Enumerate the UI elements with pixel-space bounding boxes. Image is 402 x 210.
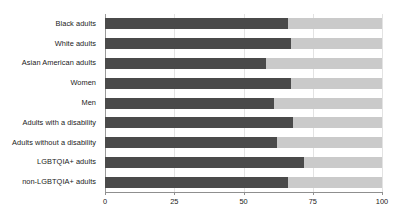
category-label: Adults with a disability <box>0 113 100 133</box>
bar-segment-primary <box>105 38 291 49</box>
bar-track <box>105 157 382 168</box>
bar-segment-primary <box>105 117 293 128</box>
bar-segment-remainder <box>277 137 382 148</box>
bar-segment-remainder <box>304 157 382 168</box>
category-label: Adults without a disability <box>0 133 100 153</box>
bar-row <box>105 172 382 192</box>
bar-segment-remainder <box>274 98 382 109</box>
bar-segment-remainder <box>288 18 382 29</box>
bar-chart: Black adultsWhite adultsAsian American a… <box>0 0 402 210</box>
x-tick-mark <box>313 192 314 195</box>
bar-track <box>105 78 382 89</box>
bar-segment-primary <box>105 18 288 29</box>
bar-segment-primary <box>105 177 288 188</box>
x-tick-label: 50 <box>239 197 247 206</box>
category-label: White adults <box>0 34 100 54</box>
bar-segment-remainder <box>266 58 382 69</box>
category-label: Asian American adults <box>0 54 100 74</box>
category-label: Women <box>0 73 100 93</box>
bar-row <box>105 133 382 153</box>
x-tick-mark <box>244 192 245 195</box>
x-tick-label: 75 <box>309 197 317 206</box>
bar-segment-primary <box>105 137 277 148</box>
bar-segment-remainder <box>288 177 382 188</box>
bar-track <box>105 58 382 69</box>
bar-row <box>105 93 382 113</box>
bar-track <box>105 38 382 49</box>
x-tick-mark <box>382 192 383 195</box>
bar-segment-primary <box>105 58 266 69</box>
bar-track <box>105 98 382 109</box>
x-axis: 0255075100 <box>105 192 382 210</box>
x-tick-mark <box>174 192 175 195</box>
bar-track <box>105 18 382 29</box>
bar-row <box>105 73 382 93</box>
bar-track <box>105 137 382 148</box>
bar-segment-remainder <box>291 38 382 49</box>
bar-row <box>105 54 382 74</box>
bars-container <box>105 14 382 192</box>
category-label: Men <box>0 93 100 113</box>
bar-segment-primary <box>105 157 304 168</box>
bar-segment-remainder <box>291 78 382 89</box>
bar-row <box>105 113 382 133</box>
bar-segment-primary <box>105 98 274 109</box>
bar-row <box>105 14 382 34</box>
bar-segment-remainder <box>293 117 382 128</box>
bar-segment-primary <box>105 78 291 89</box>
gridline <box>382 14 383 192</box>
x-tick-label: 100 <box>376 197 388 206</box>
x-tick-label: 0 <box>103 197 107 206</box>
x-tick-label: 25 <box>170 197 178 206</box>
category-axis-labels: Black adultsWhite adultsAsian American a… <box>0 14 100 192</box>
bar-row <box>105 152 382 172</box>
plot-area <box>105 14 382 192</box>
category-label: Black adults <box>0 14 100 34</box>
category-label: LGBTQIA+ adults <box>0 152 100 172</box>
category-label: non-LGBTQIA+ adults <box>0 172 100 192</box>
x-tick-mark <box>105 192 106 195</box>
bar-row <box>105 34 382 54</box>
bar-track <box>105 117 382 128</box>
bar-track <box>105 177 382 188</box>
